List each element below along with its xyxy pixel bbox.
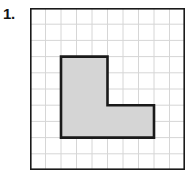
- problem-number-label: 1.: [3, 6, 15, 22]
- grid-figure-container: [30, 8, 185, 170]
- grid-figure-svg: [30, 8, 185, 170]
- worksheet-figure-panel: 1.: [0, 0, 195, 196]
